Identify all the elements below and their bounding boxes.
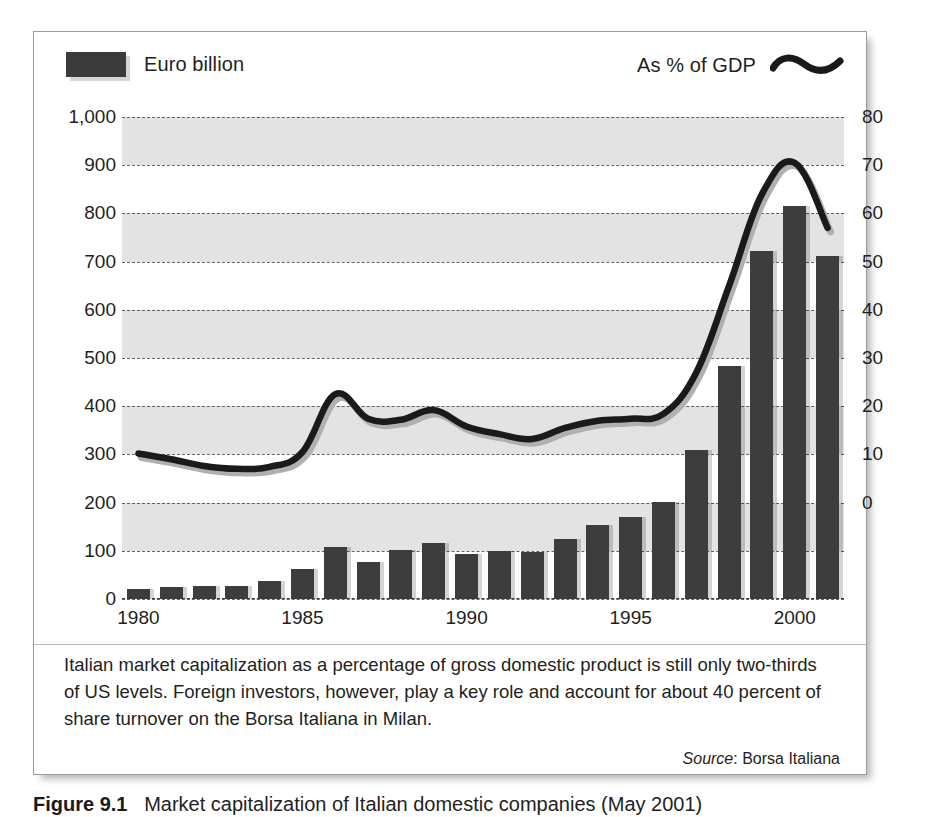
x-axis-tick: 1995 <box>610 607 652 629</box>
y-axis-right: 01020304050607080 <box>852 117 908 599</box>
y-axis-right-tick: 60 <box>862 202 883 224</box>
y-axis-right-tick: 80 <box>862 106 883 128</box>
y-axis-left-tick: 800 <box>84 202 116 224</box>
y-axis-left-tick: 1,000 <box>68 106 116 128</box>
y-axis-left-tick: 600 <box>84 299 116 321</box>
legend-item-as-pct-of-gdp: As % of GDP <box>637 52 844 78</box>
legend-label-euro-billion: Euro billion <box>144 53 244 76</box>
y-axis-left-tick: 100 <box>84 540 116 562</box>
figure-page: Euro billion As % of GDP 010020030040050… <box>0 0 935 817</box>
chart-panel: Euro billion As % of GDP 010020030040050… <box>33 31 867 775</box>
x-axis-tick: 2000 <box>774 607 816 629</box>
legend-label-as-pct-of-gdp: As % of GDP <box>637 54 756 77</box>
figure-number: Figure 9.1 <box>33 793 127 815</box>
y-axis-left-tick: 500 <box>84 347 116 369</box>
x-axis-tick: 1985 <box>281 607 323 629</box>
x-axis: 19801985199019952000 <box>122 607 844 637</box>
figure-caption: Figure 9.1 Market capitalization of Ital… <box>33 793 913 816</box>
source-label: Source <box>683 750 734 767</box>
gridline <box>122 599 844 600</box>
y-axis-right-tick: 10 <box>862 443 883 465</box>
line-series <box>122 117 844 599</box>
caption-divider <box>34 644 868 645</box>
y-axis-left-tick: 400 <box>84 395 116 417</box>
y-axis-left-tick: 200 <box>84 492 116 514</box>
x-axis-baseline <box>122 598 844 599</box>
y-axis-left-tick: 700 <box>84 251 116 273</box>
bar-swatch-icon <box>66 52 126 77</box>
source-value: Borsa Italiana <box>742 750 840 767</box>
y-axis-left-tick: 0 <box>105 588 116 610</box>
y-axis-right-tick: 70 <box>862 154 883 176</box>
source-line: Source: Borsa Italiana <box>683 750 840 768</box>
y-axis-right-tick: 50 <box>862 251 883 273</box>
chart-description: Italian market capitalization as a perce… <box>64 652 834 732</box>
y-axis-right-tick: 0 <box>862 492 873 514</box>
legend-item-euro-billion: Euro billion <box>66 52 244 77</box>
y-axis-right-tick: 40 <box>862 299 883 321</box>
x-axis-tick: 1980 <box>117 607 159 629</box>
y-axis-left-tick: 900 <box>84 154 116 176</box>
plot-area <box>122 117 844 599</box>
y-axis-left-tick: 300 <box>84 443 116 465</box>
chart-legend: Euro billion As % of GDP <box>34 32 868 88</box>
y-axis-right-tick: 20 <box>862 395 883 417</box>
figure-caption-text: Market capitalization of Italian domesti… <box>144 793 702 815</box>
x-axis-tick: 1990 <box>445 607 487 629</box>
y-axis-left: 01002003004005006007008009001,000 <box>56 117 116 599</box>
line-series-shadow <box>141 165 830 473</box>
y-axis-right-tick: 30 <box>862 347 883 369</box>
line-swatch-icon <box>770 52 844 78</box>
